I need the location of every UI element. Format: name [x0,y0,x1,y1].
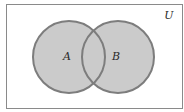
universe-label: U [164,9,174,22]
venn-diagram: A B U [0,0,184,112]
set-b-label: B [111,50,120,63]
set-a-label: A [62,50,71,63]
